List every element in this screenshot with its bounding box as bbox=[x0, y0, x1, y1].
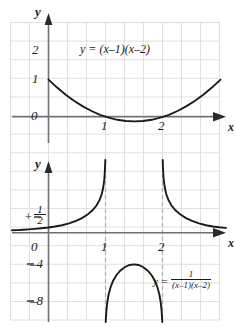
bottom-ytick-minus4: –4 bbox=[30, 256, 43, 272]
top-equation-label: y = (x–1)(x–2) bbox=[80, 42, 150, 57]
bottom-x-axis-label: x bbox=[228, 236, 234, 251]
bottom-equation-fraction: 1 (x–1)(x–2) bbox=[171, 270, 211, 291]
top-xtick-2: 2 bbox=[158, 118, 165, 134]
half-fraction: 1 2 bbox=[34, 204, 46, 226]
bottom-xtick-1: 1 bbox=[101, 239, 108, 255]
bottom-equation-numerator: 1 bbox=[171, 270, 211, 279]
bottom-origin-label: 0 bbox=[31, 239, 38, 255]
half-denominator: 2 bbox=[34, 214, 46, 226]
top-ytick-1: 1 bbox=[32, 71, 39, 87]
half-numerator: 1 bbox=[34, 204, 46, 214]
top-origin-label: 0 bbox=[31, 108, 38, 124]
top-y-axis-label: y bbox=[35, 4, 41, 20]
bottom-xtick-2: 2 bbox=[158, 239, 165, 255]
bottom-y-axis-label: y bbox=[35, 156, 41, 172]
bottom-ytick-minus8: –8 bbox=[30, 293, 43, 309]
half-plus-sign: + bbox=[25, 210, 32, 225]
bottom-equation-denominator: (x–1)(x–2) bbox=[171, 279, 211, 291]
bottom-equation-lhs: y = bbox=[153, 275, 168, 287]
top-x-axis-label: x bbox=[228, 120, 234, 135]
top-ytick-2: 2 bbox=[32, 42, 39, 58]
bottom-equation-label: y = 1 (x–1)(x–2) bbox=[153, 270, 211, 291]
top-xtick-1: 1 bbox=[101, 118, 108, 134]
